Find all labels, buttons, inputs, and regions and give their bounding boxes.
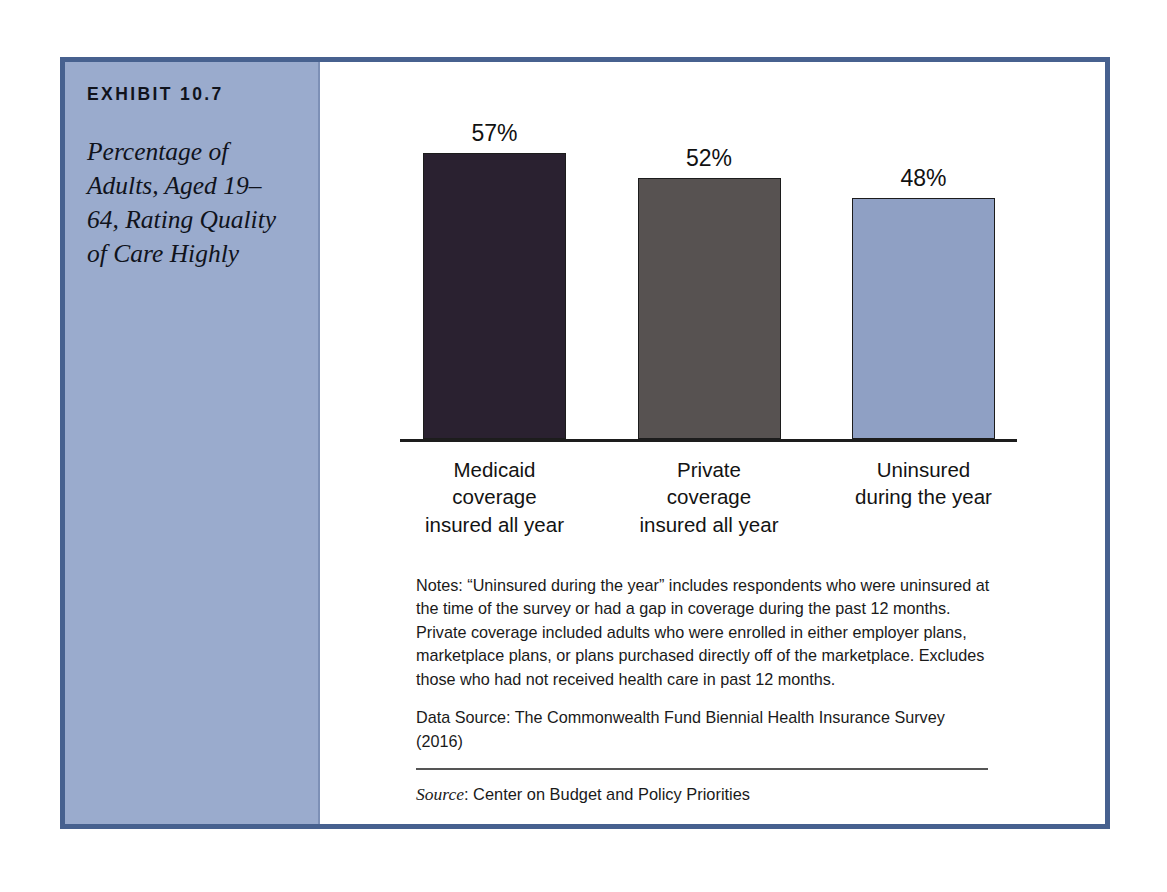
caption-sidebar: EXHIBIT 10.7 Percentage of Adults, Aged … (65, 62, 320, 824)
bar-series: 57% 52% 48% (423, 62, 995, 439)
source-divider (416, 768, 988, 770)
bar-medicaid (423, 153, 566, 439)
bar-private (638, 178, 781, 439)
category-label-uninsured: Uninsured during the year (852, 456, 995, 538)
bar-value-label-private: 52% (686, 145, 732, 172)
category-label-medicaid: Medicaid coverage insured all year (423, 456, 566, 538)
bar-chart: 57% 52% 48% Medicaid coverage insured al… (320, 62, 1105, 447)
exhibit-number: EXHIBIT 10.7 (87, 84, 292, 105)
exhibit-body: 57% 52% 48% Medicaid coverage insured al… (320, 62, 1105, 824)
bar-column-medicaid: 57% (423, 62, 566, 439)
x-axis-baseline (400, 439, 1017, 442)
bar-value-label-uninsured: 48% (900, 165, 946, 192)
source-label: Source (416, 784, 464, 804)
x-axis-category-labels: Medicaid coverage insured all year Priva… (423, 456, 995, 538)
exhibit-frame: EXHIBIT 10.7 Percentage of Adults, Aged … (60, 57, 1110, 829)
data-source: Data Source: The Commonwealth Fund Bienn… (416, 706, 994, 753)
exhibit-title: Percentage of Adults, Aged 19–64, Rating… (87, 135, 292, 271)
notes-block: Notes: “Uninsured during the year” inclu… (416, 574, 994, 805)
bar-value-label-medicaid: 57% (471, 120, 517, 147)
bar-column-private: 52% (638, 62, 781, 439)
category-label-private: Private coverage insured all year (638, 456, 781, 538)
source-text: : Center on Budget and Policy Priorities (464, 785, 750, 803)
bar-uninsured (852, 198, 995, 439)
exhibit-page: { "sidebar": { "exhibit_number": "EXHIBI… (0, 0, 1167, 892)
bar-column-uninsured: 48% (852, 62, 995, 439)
source-attribution: Source: Center on Budget and Policy Prio… (416, 784, 994, 805)
chart-notes: Notes: “Uninsured during the year” inclu… (416, 574, 994, 691)
